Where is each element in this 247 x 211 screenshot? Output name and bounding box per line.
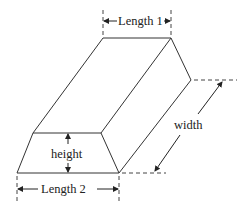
length1-dimension: Length 1 xyxy=(103,10,171,36)
length1-label: Length 1 xyxy=(118,14,163,28)
length2-dimension: Length 2 xyxy=(17,176,119,203)
prism-body xyxy=(17,38,191,173)
height-label: height xyxy=(51,147,83,161)
width-dimension: width xyxy=(122,80,237,173)
width-label: width xyxy=(174,118,203,132)
height-dimension: height xyxy=(51,134,83,172)
prism-diagram: Length 1 Length 2 height width xyxy=(0,0,247,211)
length2-label: Length 2 xyxy=(41,182,86,196)
